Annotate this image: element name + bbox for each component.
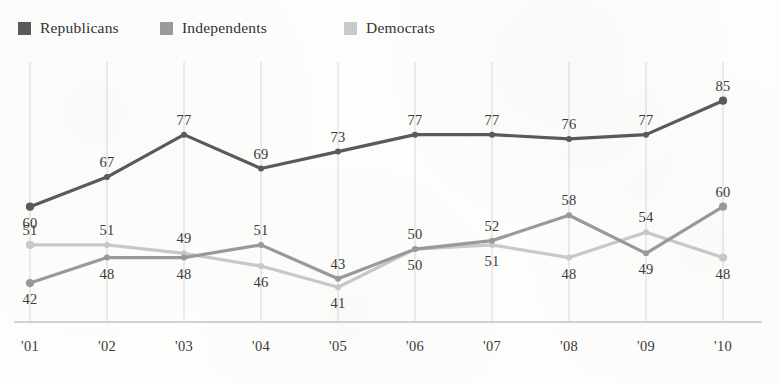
x-tick-label: '01 xyxy=(21,339,39,354)
series-line-independents xyxy=(30,207,723,283)
data-point xyxy=(258,166,264,172)
data-point xyxy=(26,203,34,211)
x-tick-label: '05 xyxy=(329,339,347,354)
data-point xyxy=(335,276,341,282)
x-tick-label: '09 xyxy=(637,339,655,354)
data-point xyxy=(566,255,572,261)
data-point xyxy=(489,132,495,138)
data-point xyxy=(26,279,34,287)
x-tick-label: '03 xyxy=(175,339,193,354)
x-tick-label: '07 xyxy=(483,339,501,354)
data-label: 58 xyxy=(562,193,577,208)
x-tick-label: '02 xyxy=(98,339,116,354)
data-point xyxy=(258,242,264,248)
data-point xyxy=(181,255,187,261)
data-point xyxy=(566,136,572,142)
data-point xyxy=(719,254,727,262)
plot-area: 6067776973777776778542484851435052584960… xyxy=(0,0,779,383)
data-point xyxy=(566,212,572,218)
data-point xyxy=(335,149,341,155)
data-label: 73 xyxy=(331,130,346,145)
data-point xyxy=(643,132,649,138)
data-label: 49 xyxy=(177,231,192,246)
data-point xyxy=(26,241,34,249)
data-label: 48 xyxy=(562,267,577,282)
data-label: 85 xyxy=(716,79,731,94)
data-label: 41 xyxy=(331,296,346,311)
data-label: 77 xyxy=(408,113,423,128)
data-point xyxy=(181,132,187,138)
x-tick-label: '06 xyxy=(406,339,424,354)
data-point xyxy=(104,242,110,248)
x-tick-label: '04 xyxy=(252,339,270,354)
data-point xyxy=(104,174,110,180)
data-label: 51 xyxy=(100,223,115,238)
data-label: 60 xyxy=(716,185,731,200)
data-label: 46 xyxy=(254,275,269,290)
data-point xyxy=(412,246,418,252)
data-label: 51 xyxy=(23,223,38,238)
data-label: 42 xyxy=(23,292,38,307)
data-label: 50 xyxy=(408,227,423,242)
data-point xyxy=(719,203,727,211)
x-tick-label: '08 xyxy=(560,339,578,354)
data-label: 49 xyxy=(639,262,654,277)
data-point xyxy=(104,255,110,261)
data-label: 43 xyxy=(331,257,346,272)
data-point xyxy=(258,263,264,269)
data-label: 48 xyxy=(716,267,731,282)
data-label: 48 xyxy=(177,267,192,282)
data-label: 69 xyxy=(254,147,269,162)
data-label: 77 xyxy=(485,113,500,128)
data-point xyxy=(335,284,341,290)
line-chart: Republicans Independents Democrats 60677… xyxy=(0,0,779,383)
plot-svg xyxy=(0,0,779,383)
data-label: 54 xyxy=(639,210,654,225)
data-label: 48 xyxy=(100,267,115,282)
data-label: 51 xyxy=(254,223,269,238)
data-label: 52 xyxy=(485,219,500,234)
data-label: 50 xyxy=(408,258,423,273)
data-label: 77 xyxy=(639,113,654,128)
data-point xyxy=(643,250,649,256)
series-line-republicans xyxy=(30,101,723,207)
x-tick-label: '10 xyxy=(714,339,732,354)
data-label: 77 xyxy=(177,113,192,128)
data-point xyxy=(719,97,727,105)
data-point xyxy=(643,229,649,235)
data-label: 51 xyxy=(485,254,500,269)
data-point xyxy=(489,238,495,244)
data-label: 67 xyxy=(100,155,115,170)
data-point xyxy=(412,132,418,138)
data-label: 76 xyxy=(562,117,577,132)
